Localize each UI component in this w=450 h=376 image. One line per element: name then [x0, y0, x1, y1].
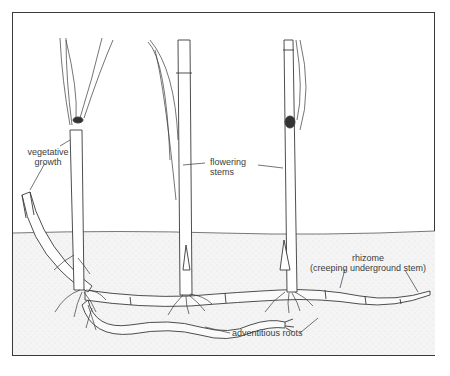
label-flowering-stems: flowering stems — [210, 157, 246, 177]
label-text: growth — [20, 157, 76, 167]
label-vegetative-growth: vegetative growth — [20, 147, 76, 167]
label-text: rhizome — [300, 253, 436, 263]
label-adventitious-roots: adventitious roots — [232, 328, 303, 338]
label-text: stems — [210, 167, 246, 177]
label-text: (creeping underground stem) — [300, 263, 436, 273]
label-text: vegetative — [20, 147, 76, 157]
label-rhizome: rhizome (creeping underground stem) — [300, 253, 436, 273]
label-text: flowering — [210, 157, 246, 167]
grass-rhizome-illustration — [0, 0, 450, 376]
